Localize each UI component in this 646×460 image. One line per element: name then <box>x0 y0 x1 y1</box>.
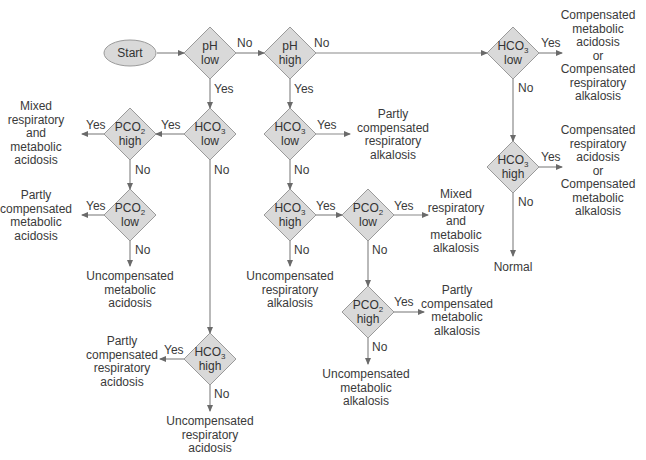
decision-condition: low <box>201 134 219 148</box>
decision-condition: high <box>199 359 222 373</box>
decision-variable: HCO <box>194 120 221 134</box>
decision-variable: HCO <box>274 201 301 215</box>
decision-condition: high <box>279 215 302 229</box>
decision-variable: PCO <box>115 201 141 215</box>
start-label: Start <box>105 46 155 60</box>
outcome-o7: Partly compensated respiratory alkalosis <box>333 108 453 162</box>
decision-variable: PCO <box>353 201 379 215</box>
outcome-o10: Partly compensated metabolic alkalosis <box>397 284 517 338</box>
decision-label: PCO2low <box>343 201 393 229</box>
acid-base-flowchart: NoNoYesNoYesNoYesYesYesNoYesNoNoYesNoYes… <box>0 0 646 460</box>
edge-label-no: No <box>372 243 387 257</box>
decision-subscript: 3 <box>524 160 528 169</box>
edge-label-no: No <box>294 163 309 177</box>
outcome-o3: Normal <box>453 261 573 275</box>
outcome-o9: Mixed respiratory and metabolic alkalosi… <box>396 188 516 256</box>
edge-label-no: No <box>314 36 329 50</box>
outcome-o2: Compensated respiratory acidosis or Comp… <box>538 124 646 219</box>
edge-label-no: No <box>214 387 229 401</box>
decision-condition: low <box>281 134 299 148</box>
decision-subscript: 2 <box>141 127 145 136</box>
decision-subscript: 2 <box>141 208 145 217</box>
decision-variable: pH <box>202 39 217 53</box>
edge-label-yes: Yes <box>214 82 234 96</box>
decision-condition: low <box>504 53 522 67</box>
edge-label-no: No <box>518 195 533 209</box>
decision-condition: low <box>201 53 219 67</box>
decision-condition: high <box>502 167 525 181</box>
decision-label: HCO3high <box>488 153 538 181</box>
edge-label-yes: Yes <box>161 118 181 132</box>
decision-variable: PCO <box>353 298 379 312</box>
decision-label: HCO3low <box>185 120 235 148</box>
decision-condition: low <box>359 215 377 229</box>
decision-variable: HCO <box>497 39 524 53</box>
decision-label: PCO2low <box>105 201 155 229</box>
outcome-o6: Uncompensated metabolic acidosis <box>70 270 190 311</box>
decision-condition: high <box>119 134 142 148</box>
decision-variable: HCO <box>497 153 524 167</box>
decision-subscript: 2 <box>379 208 383 217</box>
edge-label-no: No <box>214 163 229 177</box>
edge-label-no: No <box>294 243 309 257</box>
decision-label: PCO2high <box>105 120 155 148</box>
outcome-o13: Uncompensated respiratory acidosis <box>150 415 270 456</box>
decision-subscript: 3 <box>221 352 225 361</box>
decision-variable: HCO <box>194 345 221 359</box>
decision-subscript: 2 <box>379 305 383 314</box>
decision-subscript: 3 <box>301 208 305 217</box>
decision-label: HCO3high <box>265 201 315 229</box>
decision-subscript: 3 <box>524 46 528 55</box>
outcome-o4: Mixed respiratory and metabolic acidosis <box>0 100 96 168</box>
decision-label: HCO3high <box>185 345 235 373</box>
decision-variable: pH <box>282 39 297 53</box>
decision-variable: PCO <box>115 120 141 134</box>
decision-subscript: 3 <box>221 127 225 136</box>
edge-label-no: No <box>135 163 150 177</box>
edge-label-yes: Yes <box>316 199 336 213</box>
outcome-o8: Uncompensated respiratory alkalosis <box>230 270 350 311</box>
decision-condition: high <box>357 312 380 326</box>
decision-label: pHlow <box>185 39 235 67</box>
edge-label-no: No <box>237 36 252 50</box>
outcome-o1: Compensated metabolic acidosis or Compen… <box>538 9 646 104</box>
decision-subscript: 3 <box>301 127 305 136</box>
decision-condition: high <box>279 53 302 67</box>
decision-condition: low <box>121 215 139 229</box>
decision-label: HCO3low <box>488 39 538 67</box>
edge-label-yes: Yes <box>294 82 314 96</box>
decision-label: pHhigh <box>265 39 315 67</box>
decision-label: PCO2high <box>343 298 393 326</box>
outcome-o5: Partly compensated metabolic acidosis <box>0 189 96 243</box>
outcome-o11: Uncompensated metabolic alkalosis <box>306 368 426 409</box>
outcome-o12: Partly compensated respiratory acidosis <box>62 335 182 389</box>
edge-label-no: No <box>372 340 387 354</box>
decision-label: HCO3low <box>265 120 315 148</box>
edge-label-no: No <box>518 81 533 95</box>
decision-variable: HCO <box>274 120 301 134</box>
edge-label-no: No <box>135 243 150 257</box>
